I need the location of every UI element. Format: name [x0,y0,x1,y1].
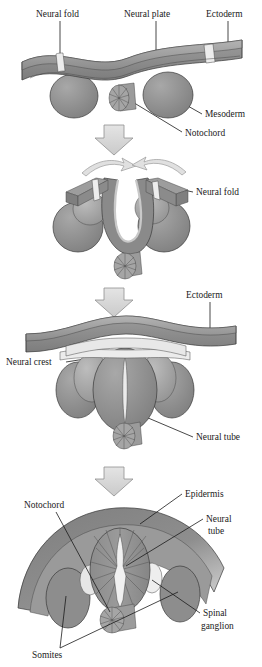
neural-tube-4 [90,528,150,612]
stage-4-panel: Notochord Epidermis Neural tube Spinal g… [18,489,234,660]
label-notochord-1: Notochord [185,128,225,138]
label-spinal-ganglion-line2: ganglion [201,621,234,631]
notochord-4 [100,604,136,633]
label-ectoderm-3: Ectoderm [186,290,223,300]
stage-2-panel: Neural fold [53,157,239,279]
stage-arrow-1-to-2 [95,125,133,155]
label-epidermis: Epidermis [185,489,224,499]
stage-3-panel: Ectoderm Neural crest Neural tube [6,290,240,449]
label-notochord-4: Notochord [24,500,64,510]
stage-1-panel: Neural fold Neural plate Ectoderm Mesode… [22,9,246,138]
label-ectoderm-1: Ectoderm [206,9,243,19]
label-neural-fold-2: Neural fold [196,187,239,197]
neural-tube-lumen-3 [123,357,128,424]
label-somites: Somites [32,650,63,660]
label-neural-tube-4-line1: Neural [206,514,232,524]
label-neural-crest: Neural crest [6,357,52,367]
label-neural-plate: Neural plate [124,9,170,19]
label-mesoderm: Mesoderm [205,109,246,119]
neurulation-figure: Neural fold Neural plate Ectoderm Mesode… [0,0,262,667]
label-neural-tube-3: Neural tube [196,432,240,442]
label-neural-tube-4-line2: tube [208,526,224,536]
motion-arrow-left [82,158,136,176]
motion-arrow-right [132,157,186,175]
neural-tube-3 [93,348,157,432]
neural-fold-band-right [204,44,215,63]
neurulation-diagram: Neural fold Neural plate Ectoderm Mesode… [0,0,262,667]
notochord-1 [109,83,136,111]
notochord-3 [113,422,142,449]
label-neural-fold-1: Neural fold [36,9,79,19]
mesoderm-block-left [50,74,98,118]
label-spinal-ganglion-line1: Spinal [203,608,227,618]
mesoderm-block-right [143,72,193,118]
stage-arrow-3-to-4 [95,467,133,496]
ectoderm-sheet-1 [22,40,242,80]
stage-arrow-2-to-3 [95,288,133,317]
somite-right [160,566,200,622]
notochord-2 [114,252,142,279]
